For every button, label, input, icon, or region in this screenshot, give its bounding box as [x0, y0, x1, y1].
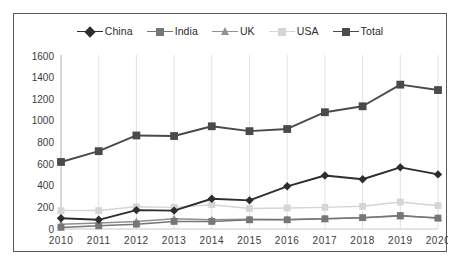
data-point: [396, 163, 404, 171]
data-point: [208, 218, 215, 225]
x-tick-label: 2012: [124, 235, 149, 246]
data-point: [171, 218, 178, 225]
x-tick-label: 2018: [350, 235, 375, 246]
line-chart: ChinaIndiaUKUSATotal 0200400600800100012…: [14, 14, 446, 251]
data-point: [284, 216, 291, 223]
y-tick-label: 400: [37, 180, 54, 191]
y-tick-label: 200: [37, 202, 54, 213]
data-point: [58, 207, 65, 214]
y-tick-label: 1000: [32, 115, 55, 126]
data-point: [170, 132, 178, 140]
data-point: [322, 215, 329, 222]
data-point: [358, 175, 366, 183]
data-point: [321, 171, 329, 179]
chart-frame: ChinaIndiaUKUSATotal 0200400600800100012…: [13, 13, 447, 252]
x-tick-label: 2015: [237, 235, 262, 246]
data-point: [397, 212, 404, 219]
x-tick-label: 2017: [313, 235, 338, 246]
data-point: [283, 125, 291, 133]
data-point: [57, 158, 65, 166]
data-point: [245, 196, 253, 204]
data-point: [246, 216, 253, 223]
data-point: [397, 199, 404, 206]
y-tick-label: 600: [37, 159, 54, 170]
y-axis-ticks: 02004006008001000120014001600: [32, 51, 55, 235]
data-point: [359, 102, 367, 110]
y-tick-label: 0: [48, 224, 54, 235]
data-point: [283, 182, 291, 190]
chart-svg: 0200400600800100012001400160020102011201…: [14, 14, 448, 253]
data-point: [322, 204, 329, 211]
data-point: [57, 214, 65, 222]
data-point: [434, 170, 442, 178]
x-tick-label: 2010: [49, 235, 74, 246]
data-point: [133, 132, 141, 140]
y-tick-label: 800: [37, 137, 54, 148]
data-point: [396, 81, 404, 89]
data-point: [133, 221, 140, 228]
x-tick-label: 2020: [426, 235, 448, 246]
data-point: [58, 224, 65, 231]
x-tick-label: 2014: [199, 235, 224, 246]
plot-area: 0200400600800100012001400160020102011201…: [14, 14, 448, 253]
x-axis-ticks: 2010201120122013201420152016201720182019…: [49, 235, 448, 246]
y-tick-label: 1400: [32, 72, 55, 83]
x-tick-label: 2011: [87, 235, 111, 246]
data-point: [434, 86, 442, 94]
data-point: [95, 147, 103, 155]
data-point: [246, 205, 253, 212]
data-point: [359, 214, 366, 221]
y-tick-label: 1200: [32, 94, 55, 105]
y-tick-label: 1600: [32, 51, 55, 62]
data-point: [95, 207, 102, 214]
data-point: [246, 127, 254, 135]
data-point: [435, 202, 442, 209]
x-tick-label: 2016: [275, 235, 300, 246]
x-tick-label: 2013: [162, 235, 187, 246]
x-tick-label: 2019: [388, 235, 413, 246]
data-point: [435, 215, 442, 222]
data-point: [284, 205, 291, 212]
data-point: [208, 122, 216, 130]
data-point: [321, 108, 329, 116]
data-point: [359, 203, 366, 210]
